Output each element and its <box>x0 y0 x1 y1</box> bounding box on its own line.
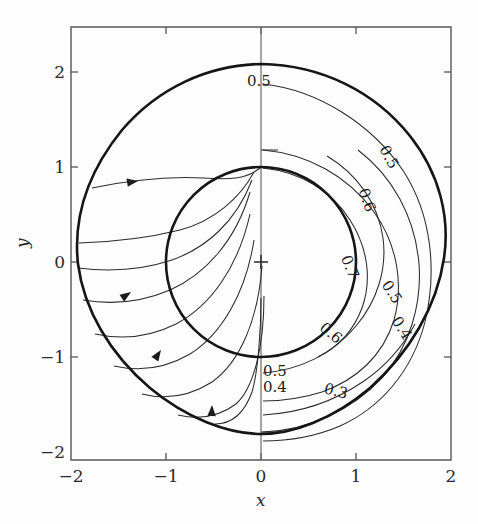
x-axis-title: x <box>256 490 266 510</box>
y-tick-label: 1 <box>21 157 65 177</box>
x-tick-label: 2 <box>431 466 471 486</box>
x-tick-label: 0 <box>241 466 281 486</box>
origin-marker-icon <box>254 255 268 269</box>
figure-container: −2 −1 0 1 2 2 1 0 −1 −2 x y 0.5 0.5 0.6 … <box>0 0 478 524</box>
x-tick-label: 1 <box>336 466 376 486</box>
x-tick-label: −1 <box>146 466 186 486</box>
y-tick-label: −1 <box>21 347 65 367</box>
y-axis-title: y <box>12 238 32 248</box>
y-tick-label: 2 <box>21 62 65 82</box>
x-tick-label: −2 <box>51 466 91 486</box>
y-tick-label: −2 <box>21 442 65 462</box>
plot-canvas <box>0 0 478 524</box>
contour-label: 0.5 <box>247 72 271 90</box>
contour-label: 0.4 <box>263 378 287 396</box>
streamline-arrowheads <box>120 177 217 416</box>
y-tick-label: 0 <box>21 252 65 272</box>
